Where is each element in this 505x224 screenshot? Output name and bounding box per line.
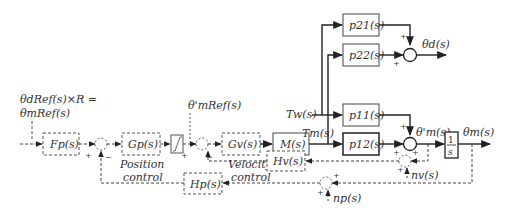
svg-text:p12(s): p12(s) [349,138,384,151]
svg-text:p22(s): p22(s) [349,49,384,62]
svg-text:+: + [333,171,340,180]
svg-text:−: − [105,153,112,162]
input-label-line2: θmRef(s) [20,107,70,120]
tm-label: Tm(s) [302,127,334,140]
svg-text:+: + [181,151,188,160]
svg-text:Hp(s): Hp(s) [189,178,221,191]
block-Hv: Hv(s) [267,151,305,171]
svg-text:p11(s): p11(s) [349,109,384,122]
svg-text:Fp(s): Fp(s) [49,138,79,151]
svg-text:s: s [448,147,453,157]
velocity-caption-1: Velocity [228,158,273,171]
svg-text:+: + [400,32,407,41]
np-label: np(s) [333,192,361,205]
svg-text:p21(s): p21(s) [349,19,384,32]
sum-junction-theta-d [404,49,417,62]
svg-text:+: + [397,165,404,174]
svg-text:+: + [85,151,92,160]
svg-text:+: + [393,59,400,68]
svg-text:+: + [317,188,324,197]
position-caption-1: Position [119,158,164,171]
svg-text:+: + [412,148,419,157]
block-p12: p12(s) [343,133,384,155]
block-Gp: Gp(s) [122,133,160,155]
block-integrator: 1 s [445,132,458,158]
sum-junction-position [95,138,107,150]
input-label-line1: θdRef(s)×R = [20,93,97,106]
svg-text:Gv(s): Gv(s) [228,138,257,151]
block-p21: p21(s) [343,14,384,36]
theta-d-label: θd(s) [422,38,450,51]
block-Fp: Fp(s) [43,133,79,155]
svg-text:Gp(s): Gp(s) [128,138,158,151]
control-diagram: θdRef(s)×R = θmRef(s) Fp(s) + − Gp(s) Po… [0,0,505,224]
svg-text:1: 1 [448,135,454,145]
theta-prime-mref-label: θ'mRef(s) [188,99,241,112]
svg-text:Hv(s): Hv(s) [272,155,303,168]
block-Hp: Hp(s) [184,173,222,194]
block-p22: p22(s) [343,44,384,66]
nv-label: nv(s) [411,169,439,182]
theta-m-label: θm(s) [463,126,494,139]
block-Gv: Gv(s) [222,133,260,155]
svg-text:+: + [400,122,407,131]
svg-text:+: + [393,148,400,157]
position-caption-2: control [123,171,163,184]
block-p11: p11(s) [343,104,384,126]
velocity-caption-2: control [231,171,271,184]
sum-junction-velocity [196,138,208,150]
